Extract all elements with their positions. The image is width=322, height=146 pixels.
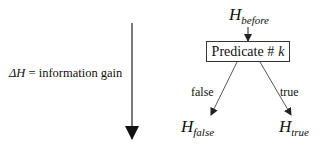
- predicate-text: Predicate #: [212, 44, 275, 60]
- true-branch-label: true: [280, 86, 299, 98]
- decision-tree-diagram: ΔH = information gain Hbefore Predicate …: [0, 0, 322, 146]
- h-before-subscript: before: [241, 14, 269, 26]
- h-before-base: H: [229, 5, 241, 24]
- h-true-base: H: [279, 117, 291, 136]
- h-true-node: Htrue: [279, 118, 309, 138]
- predicate-node: Predicate #k: [206, 41, 290, 62]
- predicate-variable: k: [278, 44, 284, 60]
- false-branch-arrow: [211, 62, 237, 115]
- information-gain-text: = information gain: [25, 66, 122, 80]
- false-branch-label: false: [191, 86, 214, 98]
- h-true-subscript: true: [291, 126, 309, 138]
- information-gain-label: ΔH = information gain: [9, 67, 122, 80]
- h-false-base: H: [181, 117, 193, 136]
- delta-h-symbol: ΔH: [9, 66, 25, 80]
- h-false-node: Hfalse: [181, 118, 214, 138]
- h-false-subscript: false: [193, 126, 214, 138]
- h-before-node: Hbefore: [229, 6, 269, 26]
